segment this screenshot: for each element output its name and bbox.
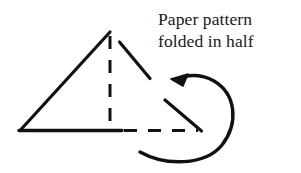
caption-line-1: Paper pattern: [158, 8, 300, 30]
caption-line-2: folded in half: [158, 30, 300, 52]
figure-root: Paper pattern folded in half: [0, 0, 301, 173]
unfold-arrow-head-icon: [171, 74, 188, 86]
triangle-hypotenuse-line: [21, 32, 111, 130]
flap-edge-lower-line: [165, 100, 202, 131]
caption: Paper pattern folded in half: [158, 8, 300, 52]
flap-edge-upper-line: [120, 42, 151, 79]
